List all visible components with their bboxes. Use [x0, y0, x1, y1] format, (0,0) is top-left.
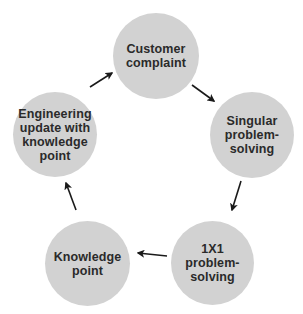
arrow-singular-to-1x1	[232, 181, 241, 210]
node-singular-problem-solving: Singular problem- solving	[210, 92, 294, 178]
arrow-engineering-to-customer	[90, 73, 112, 87]
node-1x1-problem-solving: 1X1 problem- solving	[171, 221, 254, 305]
node-engineering-update: Engineering update with knowledge point	[13, 92, 97, 177]
node-label: Knowledge point	[54, 250, 122, 278]
node-label: Engineering update with knowledge point	[18, 107, 91, 163]
node-label: 1X1 problem- solving	[185, 242, 239, 284]
arrow-1x1-to-knowledge	[138, 253, 167, 256]
node-label: Customer complaint	[126, 42, 186, 70]
cycle-diagram: Customer complaint Singular problem- sol…	[0, 0, 303, 314]
node-customer-complaint: Customer complaint	[113, 13, 199, 99]
node-label: Singular problem- solving	[225, 114, 279, 156]
node-knowledge-point: Knowledge point	[45, 221, 130, 306]
arrow-customer-to-singular	[192, 85, 214, 101]
arrow-knowledge-to-engineering	[66, 183, 76, 210]
